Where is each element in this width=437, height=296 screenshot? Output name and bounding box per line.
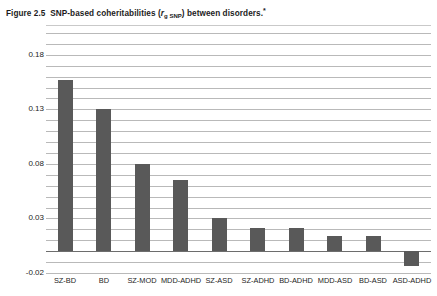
x-axis-tick-label: ASD-ADHD [393,276,432,286]
x-axis-tick-label: SZ-BD [54,276,76,286]
figure-title: Figure 2.5 SNP-based coheritabilities (r… [6,5,431,22]
gridline [46,273,431,274]
x-axis-tick-label: MDD-ADHD [161,276,201,286]
bar [96,109,111,251]
figure-number: Figure 2.5 [6,9,46,18]
figure-container: Figure 2.5 SNP-based coheritabilities (r… [0,0,437,296]
figure-caption-before: SNP-based coheritabilities ( [50,9,161,18]
bar [212,218,227,251]
footnote-marker: * [263,7,266,14]
x-axis-tick-label: BD-ASD [359,276,387,286]
y-axis-tick-label: 0.08 [2,159,44,168]
y-axis-tick-label: 0.18 [2,50,44,59]
bar [289,228,304,251]
symbol-subscript: g SNP [164,13,182,19]
x-axis-tick-label: BD [99,276,109,286]
figure-caption-after: ) between disorders. [182,9,263,18]
x-axis-tick-label: BD-ADHD [279,276,313,286]
x-axis: SZ-BDBDSZ-MODMDD-ADHDSZ-ASDSZ-ADHDBD-ADH… [46,276,431,292]
bar [327,236,342,251]
y-axis-tick-label: 0.13 [2,104,44,113]
y-axis-tick-label: -0.02 [2,268,44,277]
bar [173,180,188,251]
bars-layer [46,33,431,273]
bar [135,164,150,251]
bar [58,80,73,251]
bar [250,228,265,251]
y-axis: 0.180.130.080.03-0.02 [0,33,44,273]
x-axis-tick-label: SZ-ADHD [242,276,275,286]
header-rule-top [46,25,431,26]
x-axis-tick-label: MDD-ASD [318,276,353,286]
bar [404,251,419,266]
bar [366,236,381,251]
y-axis-tick-label: 0.03 [2,213,44,222]
x-axis-tick-label: SZ-ASD [205,276,232,286]
x-axis-tick-label: SZ-MOD [127,276,156,286]
